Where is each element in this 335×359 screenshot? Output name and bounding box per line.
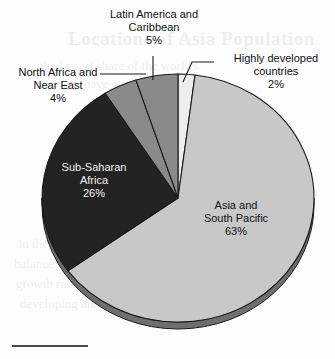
slice-label-line1: Sub-Saharan <box>62 161 127 173</box>
slice-label-line1: Highly developed <box>234 52 318 64</box>
slice-label-north-africa-and-near-east: North Africa and Near East 4% <box>2 66 114 106</box>
slice-label-line1: Asia and <box>215 199 258 211</box>
slice-label-percent: 4% <box>2 92 114 105</box>
slice-label-line1: Latin America and <box>110 8 198 20</box>
slice-label-line1: North Africa and <box>19 66 98 78</box>
slice-label-line2: Caribbean <box>129 21 180 33</box>
slice-label-sub-saharan-africa: Sub-Saharan Africa 26% <box>52 161 136 201</box>
slice-label-asia-and-south-pacific: Asia and South Pacific 63% <box>184 199 288 239</box>
slice-label-line2: Africa <box>80 174 108 186</box>
page-rule <box>12 345 88 347</box>
slice-label-percent: 26% <box>52 187 136 200</box>
slice-label-percent: 63% <box>184 225 288 238</box>
slice-label-highly-developed-countries: Highly developed countries 2% <box>218 52 334 92</box>
slice-label-percent: 5% <box>80 34 228 47</box>
slice-label-line2: Near East <box>34 79 83 91</box>
pie-chart: Latin America and Caribbean 5% Highly de… <box>0 0 335 359</box>
slice-label-line2: countries <box>254 65 299 77</box>
slice-label-latin-america-and-caribbean: Latin America and Caribbean 5% <box>80 8 228 48</box>
slice-label-line2: South Pacific <box>204 212 268 224</box>
pie-chart-figure: Locations of Asia Population the largest… <box>0 0 335 359</box>
slice-label-percent: 2% <box>218 78 334 91</box>
